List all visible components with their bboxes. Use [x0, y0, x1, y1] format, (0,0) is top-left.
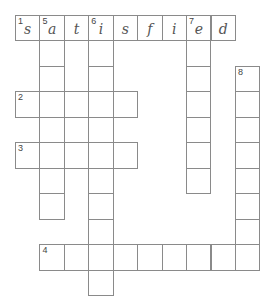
crossword-cell[interactable] [186, 244, 211, 271]
cell-letter: i [163, 20, 186, 38]
crossword-cell[interactable] [88, 270, 113, 297]
crossword-cell[interactable] [64, 244, 89, 271]
crossword-cell[interactable] [88, 168, 113, 195]
crossword-cell[interactable]: s [113, 15, 138, 42]
crossword-cell[interactable] [39, 66, 64, 93]
clue-number: 2 [18, 92, 23, 102]
crossword-cell[interactable]: 5a [39, 15, 64, 42]
crossword-cell[interactable] [88, 244, 113, 271]
crossword-cell[interactable] [162, 244, 187, 271]
crossword-cell[interactable]: 4 [39, 244, 64, 271]
clue-number: 3 [18, 143, 23, 153]
cell-letter: f [138, 20, 161, 38]
crossword-cell[interactable] [235, 142, 260, 169]
crossword-cell[interactable]: 1s [15, 15, 40, 42]
crossword-cell[interactable] [113, 142, 138, 169]
crossword-cell[interactable] [88, 117, 113, 144]
crossword-cell[interactable] [211, 244, 236, 271]
crossword-cell[interactable] [235, 219, 260, 246]
crossword-cell[interactable] [235, 91, 260, 118]
crossword-cell[interactable] [186, 117, 211, 144]
crossword-cell[interactable] [186, 40, 211, 67]
cell-letter: i [89, 20, 112, 38]
crossword-cell[interactable] [186, 66, 211, 93]
crossword-cell[interactable] [186, 142, 211, 169]
cell-letter: d [212, 20, 235, 38]
crossword-cell[interactable] [39, 40, 64, 67]
crossword-cell[interactable] [64, 91, 89, 118]
crossword-cell[interactable] [39, 193, 64, 220]
crossword-cell[interactable]: 8 [235, 66, 260, 93]
crossword-cell[interactable] [113, 244, 138, 271]
cell-letter: s [16, 20, 39, 38]
clue-number: 8 [238, 67, 243, 77]
cell-letter: e [187, 20, 210, 38]
crossword-cell[interactable] [235, 193, 260, 220]
crossword-cell[interactable] [88, 193, 113, 220]
crossword-cell[interactable] [39, 91, 64, 118]
crossword-cell[interactable] [235, 168, 260, 195]
crossword-cell[interactable] [88, 219, 113, 246]
crossword-cell[interactable] [113, 91, 138, 118]
crossword-cell[interactable]: i [162, 15, 187, 42]
crossword-cell[interactable] [186, 168, 211, 195]
crossword-cell[interactable] [88, 40, 113, 67]
crossword-cell[interactable] [88, 142, 113, 169]
crossword-cell[interactable] [88, 66, 113, 93]
crossword-cell[interactable]: t [64, 15, 89, 42]
crossword-grid: 1s5at6isfi7ed8234 [0, 0, 272, 304]
crossword-cell[interactable] [235, 117, 260, 144]
crossword-cell[interactable]: 6i [88, 15, 113, 42]
cell-letter: t [65, 20, 88, 38]
crossword-cell[interactable]: 2 [15, 91, 40, 118]
crossword-cell[interactable]: 3 [15, 142, 40, 169]
crossword-cell[interactable] [186, 91, 211, 118]
crossword-cell[interactable]: f [137, 15, 162, 42]
cell-letter: a [40, 20, 63, 38]
crossword-cell[interactable] [39, 168, 64, 195]
crossword-cell[interactable] [39, 142, 64, 169]
crossword-cell[interactable] [39, 117, 64, 144]
crossword-cell[interactable] [88, 91, 113, 118]
crossword-cell[interactable] [235, 244, 260, 271]
clue-number: 4 [42, 245, 47, 255]
crossword-cell[interactable]: 7e [186, 15, 211, 42]
crossword-cell[interactable] [137, 244, 162, 271]
crossword-cell[interactable]: d [211, 15, 236, 42]
cell-letter: s [114, 20, 137, 38]
crossword-cell[interactable] [64, 142, 89, 169]
